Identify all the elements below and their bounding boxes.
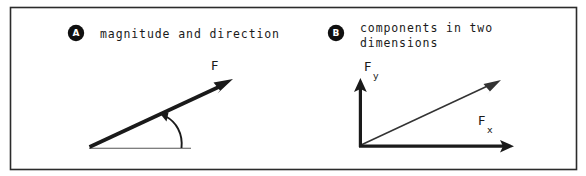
- panel-b-resultant-arrowhead: [484, 80, 502, 94]
- figure-container: A magnitude and direction F B: [0, 0, 586, 176]
- panel-b-x-axis-label: F x: [478, 113, 493, 135]
- vector-figure-svg: A magnitude and direction F B: [0, 0, 586, 176]
- badge-letter-a: A: [73, 28, 80, 38]
- panel-b-y-axis-label: F y: [364, 59, 379, 81]
- panel-b-y-axis-label-base: F: [364, 59, 371, 74]
- panel-a-vector-label: F: [211, 58, 218, 73]
- panel-b-caption-line-2: dimensions: [360, 36, 438, 50]
- panel-b-badge: B: [328, 25, 344, 41]
- panel-b-y-axis-label-subscript: y: [373, 70, 379, 81]
- panel-b-caption-line-1: components in two: [360, 21, 493, 35]
- badge-letter-b: B: [333, 28, 340, 38]
- panel-a-angle-arc: [166, 117, 182, 149]
- panel-a-angle-arc-arrowhead: [160, 113, 169, 122]
- panel-b-x-axis-label-base: F: [478, 113, 485, 128]
- panel-a-caption-line-1: magnitude and direction: [100, 27, 280, 41]
- panel-a-vector-shaft: [90, 85, 224, 147]
- panel-b-resultant-shaft: [361, 83, 494, 145]
- panel-a: A magnitude and direction F: [68, 25, 280, 148]
- panel-b-x-axis-label-subscript: x: [487, 124, 493, 135]
- panel-a-badge: A: [68, 25, 84, 41]
- panel-b: B components in two dimensions F y F x: [328, 21, 514, 153]
